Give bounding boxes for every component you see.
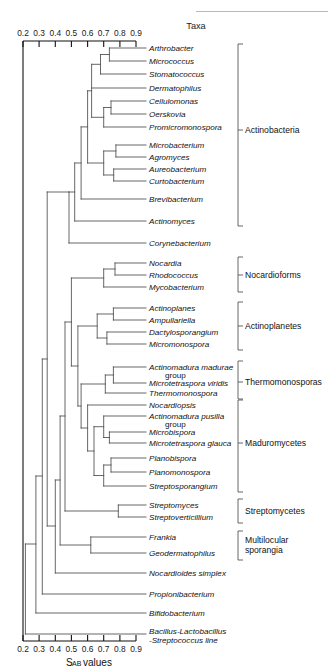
bottom-tick-label-0: 0.2 [17,644,29,654]
top-tick-label-0: 0.2 [17,28,29,38]
leaf-label-brevibacterium: Brevibacterium [149,195,203,204]
leaf-label-nocardioides-simplex: Nocardioides simplex [149,569,227,578]
bottom-axis [23,635,136,641]
leaf-label-bacillus-lactobacillus: Bacillus-Lactobacillus [149,627,226,636]
leaf-label-frankia: Frankia [149,533,176,542]
leaf-label-actinomadura-madurae: Actinomadura madurae [148,363,234,372]
leaf-label-dactylosporangium: Dactylosporangium [149,328,219,337]
leaf-label-streptoverticillium: Streptoverticillium [149,513,213,522]
group-label-maduromycetes: Maduromycetes [245,438,306,448]
top-axis [23,41,136,641]
leaf-label-streptococcus-line: -Streptococcus line [149,636,218,645]
leaf-label-microbacterium: Microbacterium [149,141,205,150]
leaf-label-corynebacterium: Corynebacterium [149,239,211,248]
group-label-multilocular: Multilocular [245,535,289,545]
leaf-label-cellulomonas: Cellulomonas [149,97,198,106]
leaf-label-stomatococcus: Stomatococcus [149,70,204,79]
leaf-label-microtetraspora-glauca: Microtetraspora glauca [149,439,232,448]
leaf-label-rhodococcus: Rhodococcus [149,271,198,280]
leaf-label-propionibacterium: Propionibacterium [149,590,214,599]
leaf-label-micromonospora: Micromonospora [149,340,210,349]
leaf-label-mycobacterium: Mycobacterium [149,283,204,292]
leaf-label-arthrobacter: Arthrobacter [148,44,194,53]
top-tick-label-2: 0.4 [49,28,61,38]
dendrogram-branches [25,48,146,634]
group-brackets: Actinobacteria Nocardioforms Actinoplane… [238,44,322,560]
x-axis-title: S AB values [66,657,112,667]
leaf-label-microtetraspora-viridis: Microtetraspora viridis [149,379,228,388]
leaf-label-nocardiopsis: Nocardiopsis [149,401,196,410]
leaf-label-geodermatophilus: Geodermatophilus [149,549,215,558]
leaf-label-dermatophilus: Dermatophilus [149,84,201,93]
group-label-sporangia: sporangia [245,545,283,555]
top-tick-label-5: 0.7 [98,28,110,38]
group-label-actinobacteria: Actinobacteria [245,125,300,135]
bottom-tick-label-1: 0.3 [33,644,45,654]
bottom-axis-tick-labels: 0.2 0.3 0.4 0.5 0.6 0.7 0.8 0.9 [17,644,142,654]
leaf-label-thermomonospora: Thermomonospora [149,389,218,398]
leaf-label-micrococcus: Micrococcus [149,57,194,66]
bottom-tick-label-2: 0.4 [49,644,61,654]
leaf-label-streptosporangium: Streptosporangium [149,482,218,491]
top-tick-label-6: 0.8 [114,28,126,38]
leaf-label-curtobacterium: Curtobacterium [149,177,205,186]
top-tick-label-4: 0.6 [82,28,94,38]
leaf-label-promicromonospora: Promicromonospora [149,123,222,132]
leaf-label-nocardia: Nocardia [149,259,182,268]
bottom-tick-label-3: 0.5 [66,644,78,654]
bottom-tick-label-5: 0.7 [98,644,110,654]
bottom-tick-label-7: 0.9 [130,644,142,654]
group-label-streptomycetes: Streptomycetes [245,506,305,516]
x-axis-title-tail: values [83,657,112,667]
top-tick-label-3: 0.5 [66,28,78,38]
top-tick-label-1: 0.3 [33,28,45,38]
x-axis-title-sub: AB [72,660,82,667]
leaf-label-oerskovia: Oerskovia [149,110,186,119]
bottom-tick-label-6: 0.8 [114,644,126,654]
dendrogram-figure: 0.2 0.3 0.4 0.5 0.6 0.7 0.8 0.9 Taxa 0.2… [0,0,328,667]
leaf-label-actinomadura-pusilla: Actinomadura pusilla [148,412,225,421]
leaf-label-bifidobacterium: Bifidobacterium [149,609,205,618]
leaf-label-planomonospora: Planomonospora [149,468,211,477]
leaf-labels: Arthrobacter Micrococcus Stomatococcus D… [148,44,234,645]
group-label-nocardioforms: Nocardioforms [245,270,301,280]
leaf-label-ampullariella: Ampullariella [148,316,196,325]
leaf-label-planobispora: Planobispora [149,454,197,463]
group-label-actinoplanetes: Actinoplanetes [245,321,301,331]
leaf-label-streptomyces: Streptomyces [149,501,198,510]
top-axis-tick-labels: 0.2 0.3 0.4 0.5 0.6 0.7 0.8 0.9 [17,28,142,38]
leaf-label-aureobacterium: Aureobacterium [148,165,206,174]
top-tick-label-7: 0.9 [130,28,142,38]
leaf-label-actinoplanes: Actinoplanes [148,304,195,313]
leaf-label-actinomyces: Actinomyces [148,217,195,226]
group-label-thermomonosporas: Thermomonosporas [245,377,322,387]
taxa-column-header: Taxa [186,21,206,31]
bottom-tick-label-4: 0.6 [82,644,94,654]
leaf-label-agromyces: Agromyces [148,153,189,162]
leaf-label-microbispora: Microbispora [149,428,196,437]
